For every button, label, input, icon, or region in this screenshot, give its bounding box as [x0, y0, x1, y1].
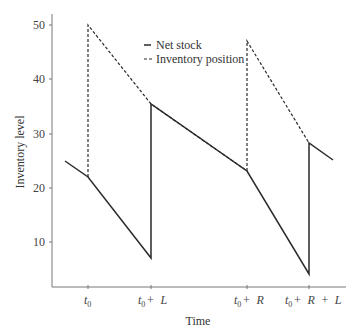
y-axis-title: Inventory level — [13, 115, 27, 189]
x-tick-t0-plus-r-plus-l: t0+ R + L — [285, 293, 342, 309]
legend-inventory-position: Inventory position — [156, 52, 244, 66]
x-tick-t0-plus-l: t0+ L — [138, 293, 167, 309]
series-net-stock — [65, 104, 333, 274]
y-ticks: 50 40 30 20 10 — [33, 18, 52, 249]
x-ticks: t0 t0+ L t0+ R t0+ R + L — [84, 285, 342, 309]
y-tick-10: 10 — [33, 235, 45, 249]
legend-net-stock: Net stock — [156, 38, 202, 52]
legend: Net stock Inventory position — [144, 38, 244, 66]
y-tick-40: 40 — [33, 72, 45, 86]
inventory-chart: 50 40 30 20 10 t0 t0+ L t0+ R t0+ R + L … — [0, 0, 364, 335]
x-tick-t0-plus-r: t0+ R — [234, 293, 264, 309]
y-tick-50: 50 — [33, 18, 45, 32]
x-axis-title: Time — [186, 314, 211, 328]
y-tick-20: 20 — [33, 181, 45, 195]
y-tick-30: 30 — [33, 127, 45, 141]
x-tick-t0: t0 — [84, 293, 91, 309]
